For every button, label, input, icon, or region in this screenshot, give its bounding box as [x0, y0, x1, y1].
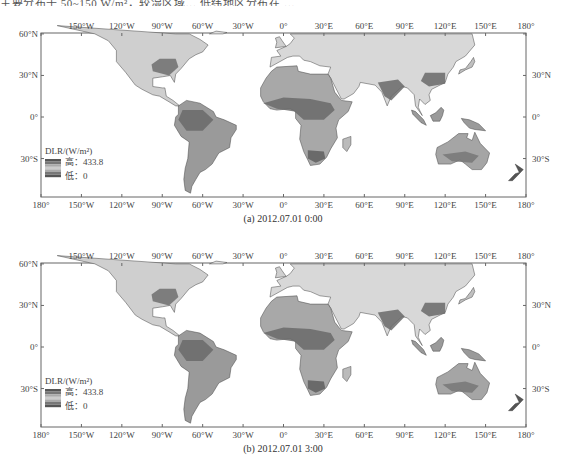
- left-lat-tick-label: 30°N: [19, 300, 39, 310]
- bottom-lon-tick-label: 180°: [32, 430, 50, 440]
- top-lon-tick-label: 30°W: [233, 251, 255, 261]
- bottom-lon-tick-label: 0°: [279, 430, 288, 440]
- right-lat-tick-label: 30°N: [532, 300, 552, 310]
- bottom-lon-tick-label: 150°E: [474, 430, 497, 440]
- top-lon-tick-label: 180°: [517, 251, 535, 261]
- bottom-lon-tick-label: 120°W: [109, 430, 135, 440]
- top-lon-tick-label: 150°E: [474, 251, 497, 261]
- top-lon-tick-label: 90°E: [396, 251, 415, 261]
- left-lat-tick-label: 60°N: [19, 259, 39, 269]
- panel-caption-b: (b) 2012.07.01 3:00: [0, 443, 566, 454]
- bottom-lon-tick-label: 180°: [517, 430, 535, 440]
- right-lat-tick-label: 30°S: [532, 384, 550, 394]
- left-lat-tick-label: 0°: [30, 342, 39, 352]
- bottom-lon-tick-label: 150°W: [69, 430, 95, 440]
- legend-low-label: 低：0: [65, 400, 88, 411]
- left-lat-tick-label: 30°S: [20, 384, 38, 394]
- bottom-lon-tick-label: 120°E: [434, 430, 457, 440]
- bottom-lon-tick-label: 90°E: [396, 430, 415, 440]
- bottom-lon-tick-label: 90°W: [152, 430, 174, 440]
- map-panel-b: 150°W120°W90°W60°W30°W0°30°E60°E90°E120°…: [0, 0, 566, 230]
- bottom-lon-tick-label: 60°W: [192, 430, 214, 440]
- top-lon-tick-label: 120°W: [109, 251, 135, 261]
- top-lon-tick-label: 120°E: [434, 251, 457, 261]
- top-lon-tick-label: 60°E: [355, 251, 374, 261]
- bottom-lon-tick-label: 30°E: [315, 430, 334, 440]
- legend-title: DLR/(W/m²): [45, 376, 92, 386]
- top-lon-tick-label: 0°: [279, 251, 288, 261]
- legend-high-label: 高：433.8: [65, 386, 104, 397]
- world-map-b: 150°W120°W90°W60°W30°W0°30°E60°E90°E120°…: [0, 0, 566, 465]
- bottom-lon-tick-label: 30°W: [233, 430, 255, 440]
- top-lon-tick-label: 60°W: [192, 251, 214, 261]
- top-lon-tick-label: 150°W: [69, 251, 95, 261]
- top-lon-tick-label: 90°W: [152, 251, 174, 261]
- bottom-lon-tick-label: 60°E: [355, 430, 374, 440]
- top-lon-tick-label: 30°E: [315, 251, 334, 261]
- right-lat-tick-label: 0°: [532, 342, 541, 352]
